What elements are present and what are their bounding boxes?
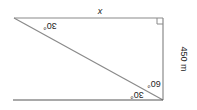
angle-60-label: 60° xyxy=(147,79,161,89)
angle-top-left-label: 30° xyxy=(43,21,57,31)
side-450m-label: 450 m xyxy=(179,46,189,71)
side-x-label: x xyxy=(97,7,103,17)
angle-30-bottom-label: 30° xyxy=(130,90,144,100)
triangle-diagram: x 30° 450 m 60° 30° xyxy=(0,0,197,110)
hypotenuse-line xyxy=(14,18,163,100)
right-angle-marker xyxy=(157,18,163,24)
